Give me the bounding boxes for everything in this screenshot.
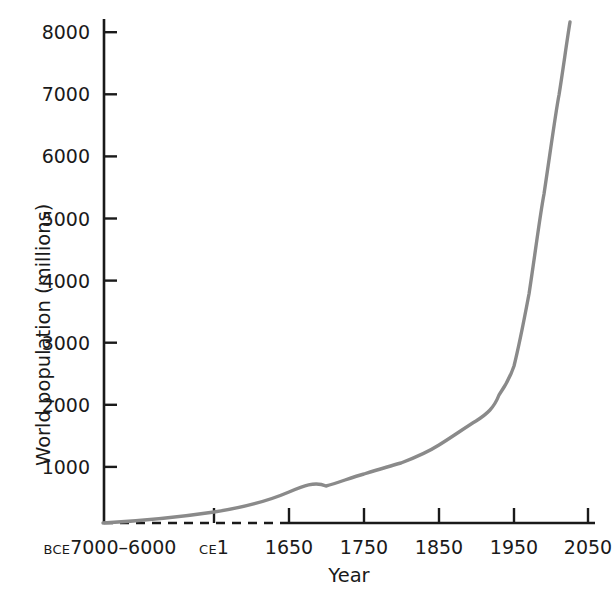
x-axis-title: Year <box>328 566 369 586</box>
world-population-line <box>103 22 570 523</box>
x-tick-label-1950: 1950 <box>490 538 538 557</box>
y-tick-label-7000: 7000 <box>8 85 90 104</box>
world-population-chart: 8000 7000 6000 5000 4000 3000 2000 1000 … <box>0 0 614 589</box>
era-label-bce: BCE <box>44 542 71 557</box>
x-tick-label-ce-1: CE1 <box>199 538 229 557</box>
x-tick-label-1850: 1850 <box>415 538 463 557</box>
x-tick-label-1750: 1750 <box>340 538 388 557</box>
chart-plot-area <box>0 0 614 589</box>
y-tick-label-6000: 6000 <box>8 147 90 166</box>
era-label-ce: CE <box>199 542 217 557</box>
x-tick-value-7000-6000: 7000–6000 <box>70 536 176 558</box>
x-tick-label-bce-7000-6000: BCE7000–6000 <box>44 538 177 557</box>
x-axis-ticks <box>214 508 588 523</box>
y-tick-label-8000: 8000 <box>8 23 90 42</box>
x-tick-label-2050: 2050 <box>564 538 612 557</box>
y-axis-ticks <box>104 32 117 467</box>
x-tick-label-1650: 1650 <box>265 538 313 557</box>
y-axis-title: World population (millions) <box>34 204 54 466</box>
x-tick-value-1: 1 <box>217 536 229 558</box>
